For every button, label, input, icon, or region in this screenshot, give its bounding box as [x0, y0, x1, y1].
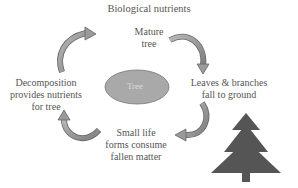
node-text: fallen matter — [96, 151, 176, 163]
node-text: forms consume — [96, 139, 176, 151]
node-text: tree — [118, 38, 180, 50]
node-text: Decomposition — [0, 77, 92, 89]
node-text: Small life — [96, 127, 176, 139]
arrow-left-to-top — [60, 27, 96, 72]
node-small-life: Small life forms consume fallen matter — [96, 127, 176, 163]
node-decomposition: Decomposition provides nutrients for tre… — [0, 77, 92, 113]
arrow-right-to-bottom — [175, 103, 206, 141]
center-label: Tree — [106, 81, 164, 91]
node-text: Mature — [118, 26, 180, 38]
node-mature-tree: Mature tree — [118, 26, 180, 50]
arrow-bottom-to-left — [58, 110, 99, 138]
node-text: for tree — [0, 101, 92, 113]
node-text: fall to ground — [178, 89, 280, 101]
node-text: provides nutrients — [0, 89, 92, 101]
node-leaves-fall: Leaves & branches fall to ground — [178, 77, 280, 101]
node-text: Leaves & branches — [178, 77, 280, 89]
fir-tree-icon — [211, 113, 281, 182]
